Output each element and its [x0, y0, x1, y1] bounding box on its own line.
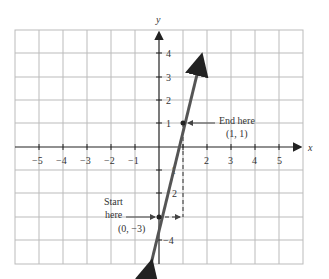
- svg-text:−1: −1: [128, 155, 139, 166]
- svg-text:2: 2: [172, 188, 177, 199]
- svg-text:4: 4: [252, 155, 257, 166]
- svg-text:2: 2: [204, 155, 209, 166]
- start-label-1: Start: [104, 196, 123, 207]
- end-coord: (1, 1): [226, 128, 248, 140]
- x-axis-label: x: [307, 142, 313, 153]
- svg-text:3: 3: [228, 155, 233, 166]
- end-label: End here: [219, 115, 255, 126]
- chart: x y −5 −4 −3 −2 −1 2 3 4 5 4 3 2 1 1 2 −…: [0, 0, 329, 279]
- svg-text:−4: −4: [163, 235, 174, 246]
- svg-text:1: 1: [166, 118, 171, 129]
- svg-text:−2: −2: [104, 155, 115, 166]
- y-axis-label: y: [155, 14, 161, 25]
- start-point: [157, 215, 162, 220]
- svg-text:−4: −4: [56, 155, 67, 166]
- svg-text:3: 3: [166, 72, 171, 83]
- svg-text:−3: −3: [80, 155, 91, 166]
- svg-text:−5: −5: [32, 155, 43, 166]
- end-point: [181, 121, 186, 126]
- svg-text:4: 4: [166, 48, 171, 59]
- svg-text:5: 5: [277, 155, 282, 166]
- start-coord: (0, −3): [118, 223, 145, 235]
- svg-text:2: 2: [166, 95, 171, 106]
- start-label-2: here: [105, 209, 123, 220]
- x-tick-labels: −5 −4 −3 −2 −1 2 3 4 5: [32, 155, 282, 166]
